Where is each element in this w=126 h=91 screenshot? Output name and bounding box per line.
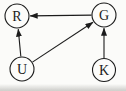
node-K: K xyxy=(93,59,116,82)
node-G-label: G xyxy=(99,8,109,23)
diagram-canvas: RGUK xyxy=(0,0,126,91)
graph-svg: RGUK xyxy=(0,0,126,91)
node-K-label: K xyxy=(99,63,109,78)
edge-U-to-G xyxy=(32,22,93,62)
node-U: U xyxy=(10,57,34,81)
edge-U-to-R xyxy=(18,29,21,56)
node-G: G xyxy=(92,3,116,27)
node-R-label: R xyxy=(12,9,22,24)
edge-G-to-R xyxy=(30,15,91,16)
node-U-label: U xyxy=(17,62,27,77)
node-R: R xyxy=(5,4,29,28)
